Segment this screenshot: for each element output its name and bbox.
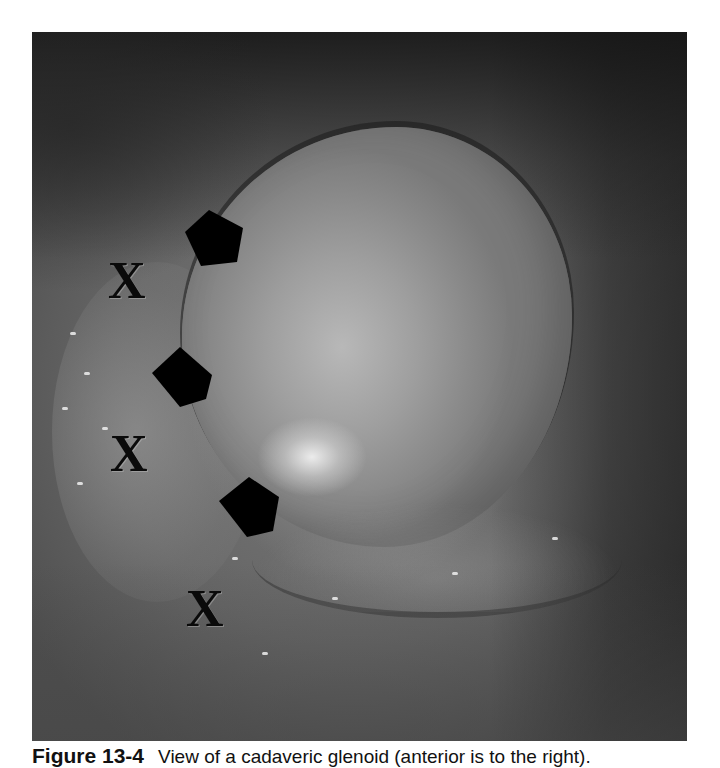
specular-highlight — [62, 407, 68, 410]
specular-highlight — [84, 372, 90, 375]
figure-number: Figure 13-4 — [32, 744, 144, 767]
specular-highlight — [102, 427, 108, 430]
figure-caption: Figure 13-4View of a cadaveric glenoid (… — [32, 745, 591, 768]
specular-highlight — [77, 482, 83, 485]
pentagon-marker-2 — [150, 345, 212, 407]
specular-highlight — [262, 652, 268, 655]
specular-highlight — [232, 557, 238, 560]
specular-highlight — [552, 537, 558, 540]
pentagon-marker-1 — [183, 208, 245, 270]
photo-shadow-bottom — [32, 32, 687, 741]
caption-text: View of a cadaveric glenoid (anterior is… — [158, 746, 591, 767]
specular-highlight — [332, 597, 338, 600]
x-label-3: X — [186, 583, 224, 635]
specular-highlight — [70, 332, 76, 335]
x-label-1: X — [108, 255, 146, 307]
pentagon-marker-3 — [217, 475, 279, 537]
glenoid-photo — [32, 32, 687, 741]
specular-highlight — [452, 572, 458, 575]
x-label-2: X — [110, 428, 148, 480]
